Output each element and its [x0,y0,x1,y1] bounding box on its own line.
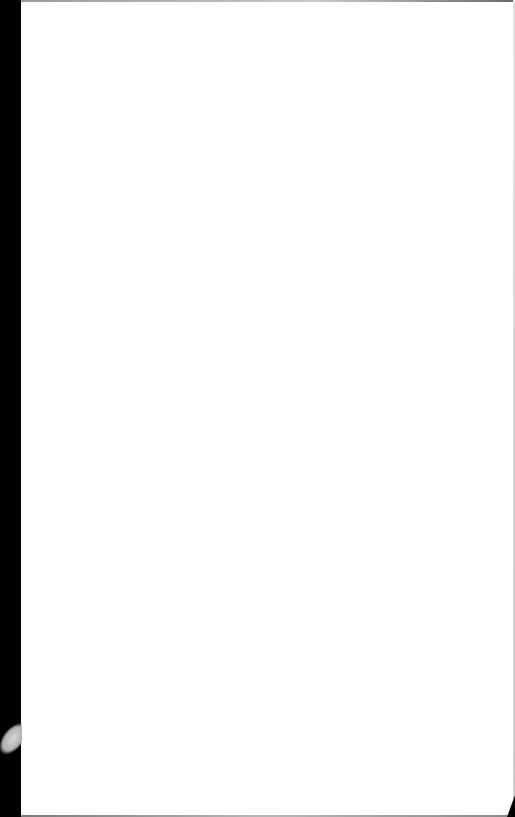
binding-shadow [0,0,21,817]
page-content [21,2,513,815]
scanned-page [0,0,515,817]
